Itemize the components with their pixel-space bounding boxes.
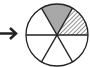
arrow-right-icon <box>0 28 16 39</box>
fraction-diagram <box>0 0 90 67</box>
fraction-circle <box>26 4 88 66</box>
